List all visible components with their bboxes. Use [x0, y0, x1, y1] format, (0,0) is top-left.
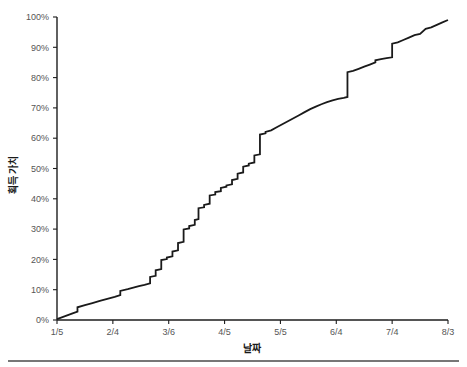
- y-tick-label: 80%: [31, 73, 49, 83]
- x-tick-label: 5/5: [274, 327, 287, 337]
- y-tick-label: 70%: [31, 103, 49, 113]
- chart-background: [0, 0, 467, 367]
- x-tick-label: 6/4: [330, 327, 343, 337]
- y-axis-title: 획득 가치: [7, 156, 19, 195]
- x-tick-label: 4/5: [218, 327, 231, 337]
- chart-figure: 0%10%20%30%40%50%60%70%80%90%100% 1/52/4…: [0, 0, 467, 367]
- y-tick-label: 100%: [26, 12, 49, 22]
- y-tick-label: 90%: [31, 43, 49, 53]
- y-tick-label: 20%: [31, 255, 49, 265]
- y-tick-label: 0%: [36, 315, 49, 325]
- x-tick-label: 7/4: [386, 327, 399, 337]
- y-tick-label: 40%: [31, 194, 49, 204]
- y-tick-label: 30%: [31, 224, 49, 234]
- x-tick-label: 3/6: [162, 327, 175, 337]
- earned-value-s-curve-chart: 0%10%20%30%40%50%60%70%80%90%100% 1/52/4…: [0, 0, 467, 367]
- x-tick-label: 8/3: [442, 327, 455, 337]
- x-tick-label: 2/4: [107, 327, 120, 337]
- y-tick-label: 60%: [31, 133, 49, 143]
- y-tick-label: 10%: [31, 285, 49, 295]
- x-axis-title: 날짜: [243, 342, 262, 354]
- x-tick-label: 1/5: [51, 327, 64, 337]
- y-tick-label: 50%: [31, 164, 49, 174]
